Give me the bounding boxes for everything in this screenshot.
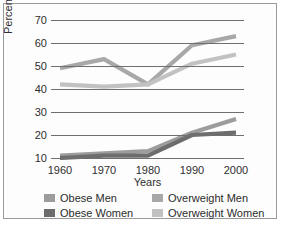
y-axis-title: Percentage [2, 0, 14, 34]
legend-item-overweight-women: Overweight Women [152, 207, 272, 219]
legend-swatch-icon [44, 194, 55, 202]
chart-frame: Percentage 70 60 50 40 30 20 10 1960 197… [3, 3, 277, 219]
legend-item-overweight-men: Overweight Men [152, 192, 272, 204]
x-axis-title: Years [51, 176, 244, 188]
gridline-60 [51, 43, 244, 44]
gridline-50 [51, 66, 244, 67]
gridline-20 [51, 135, 244, 136]
y-tick-70: 70 [19, 14, 47, 26]
legend-swatch-icon [152, 209, 163, 217]
x-tick-1970: 1970 [82, 164, 126, 176]
gridline-70 [51, 20, 244, 21]
gridline-10 [51, 158, 244, 159]
legend-swatch-icon [152, 194, 163, 202]
legend-label: Overweight Women [168, 207, 264, 219]
y-tick-50: 50 [19, 60, 47, 72]
y-tick-30: 30 [19, 106, 47, 118]
x-tick-2000: 2000 [214, 164, 258, 176]
legend-label: Overweight Men [168, 192, 248, 204]
legend-label: Obese Women [60, 207, 133, 219]
gridline-30 [51, 112, 244, 113]
chart-legend: Obese Men Overweight Men Obese Women Ove… [44, 190, 272, 220]
plot-area: 70 60 50 40 30 20 10 1960 1970 1980 1990… [51, 18, 244, 160]
y-tick-10: 10 [19, 152, 47, 164]
gridline-40 [51, 89, 244, 90]
legend-swatch-icon [44, 209, 55, 217]
x-tick-1990: 1990 [170, 164, 214, 176]
y-tick-40: 40 [19, 83, 47, 95]
legend-item-obese-men: Obese Men [44, 192, 152, 204]
x-tick-1980: 1980 [126, 164, 170, 176]
y-tick-20: 20 [19, 129, 47, 141]
series-line-obese-men [60, 119, 236, 156]
legend-item-obese-women: Obese Women [44, 207, 152, 219]
x-tick-1960: 1960 [38, 164, 82, 176]
y-tick-60: 60 [19, 37, 47, 49]
legend-label: Obese Men [60, 192, 117, 204]
